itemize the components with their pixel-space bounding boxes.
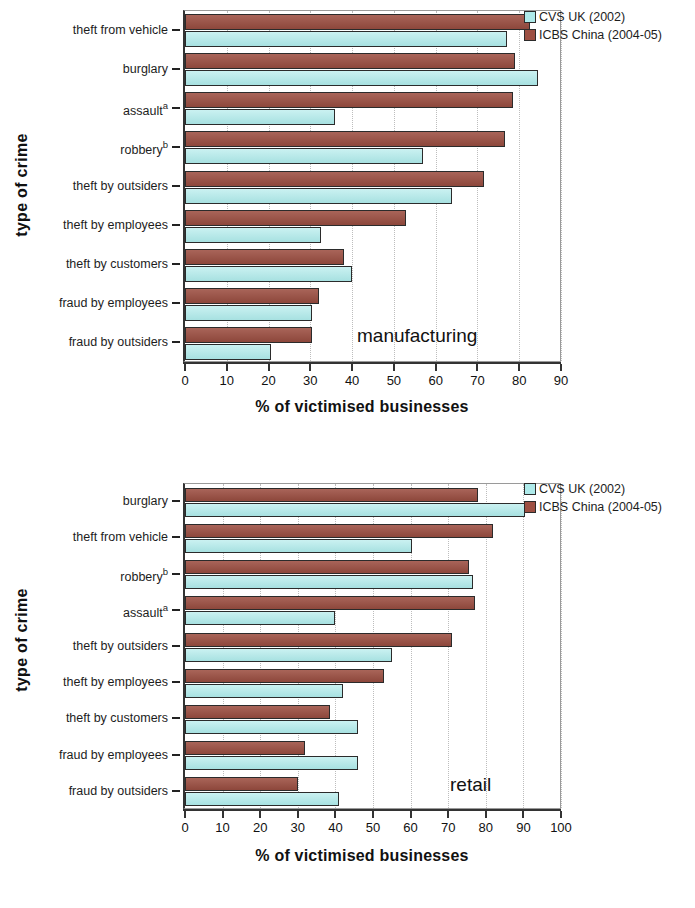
chart-manufacturing: type of crime theft from vehicleburglary… [0, 0, 695, 455]
bar-cvs-uk [185, 109, 335, 125]
bar-cvs-uk [185, 188, 452, 204]
x-axis-tick-label: 20 [252, 373, 286, 388]
x-axis-tick-label: 80 [502, 373, 536, 388]
bar-cvs-uk [185, 648, 392, 662]
chart-retail: type of crime burglarytheft from vehicle… [0, 455, 695, 908]
legend-swatch-icbs [524, 501, 536, 513]
x-axis-tick [309, 364, 311, 371]
x-axis-tick [485, 811, 487, 818]
category-label: fraud by outsiders [69, 336, 168, 349]
legend-label: CVS UK (2002) [539, 482, 625, 496]
bar-cvs-uk [185, 575, 473, 589]
bar-icbs-china [185, 633, 452, 647]
legend-label: ICBS China (2004-05) [539, 500, 662, 514]
x-axis-tick [259, 811, 261, 818]
x-axis-tick [226, 364, 228, 371]
bar-cvs-uk [185, 266, 352, 282]
category-labels-retail: burglarytheft from vehiclerobberybassaul… [0, 455, 180, 820]
x-axis-tick [476, 364, 478, 371]
x-axis-tick-label: 0 [168, 373, 202, 388]
y-axis-tick [172, 302, 180, 304]
category-label: burglary [123, 63, 168, 76]
x-axis-tick [184, 811, 186, 818]
category-label: theft by outsiders [73, 640, 168, 653]
bar-cvs-uk [185, 756, 358, 770]
category-label: burglary [123, 495, 168, 508]
x-axis-tick-label: 30 [281, 820, 315, 835]
y-axis-tick [172, 500, 180, 502]
panel-note-retail: retail [450, 774, 491, 796]
bar-cvs-uk [185, 792, 339, 806]
legend-label: ICBS China (2004-05) [539, 28, 662, 42]
x-axis-tick [334, 811, 336, 818]
x-axis-tick-label: 50 [377, 373, 411, 388]
legend-item: CVS UK (2002) [524, 8, 662, 25]
bar-icbs-china [185, 524, 493, 538]
x-axis-tick-label: 0 [168, 820, 202, 835]
y-axis-tick [172, 717, 180, 719]
y-axis-tick [172, 263, 180, 265]
y-axis-tick [172, 146, 180, 148]
x-axis-tick-label: 100 [544, 820, 578, 835]
category-label-superscript: a [163, 602, 168, 613]
bar-icbs-china [185, 777, 298, 791]
x-axis-tick [435, 364, 437, 371]
category-label-superscript: b [163, 139, 168, 150]
y-axis-tick [172, 185, 180, 187]
legend-item: ICBS China (2004-05) [524, 26, 662, 43]
y-axis-tick [172, 224, 180, 226]
legend-swatch-cvs [524, 11, 536, 23]
x-axis-line [183, 362, 561, 364]
bar-icbs-china [185, 596, 475, 610]
category-label: robberyb [120, 568, 168, 584]
plot-area-retail [183, 483, 561, 809]
x-axis-tick [184, 364, 186, 371]
y-axis-tick [172, 107, 180, 109]
x-axis-tick [268, 364, 270, 371]
legend-item: ICBS China (2004-05) [524, 498, 662, 515]
bar-cvs-uk [185, 720, 358, 734]
x-axis-tick-label: 10 [210, 373, 244, 388]
x-axis-tick-label: 10 [206, 820, 240, 835]
bar-icbs-china [185, 53, 515, 69]
bar-cvs-uk [185, 539, 412, 553]
y-axis-tick [172, 645, 180, 647]
bar-cvs-uk [185, 503, 525, 517]
category-label: theft from vehicle [73, 24, 168, 37]
gridline [561, 11, 563, 361]
bar-icbs-china [185, 14, 530, 30]
bar-icbs-china [185, 705, 330, 719]
x-axis-tick [372, 811, 374, 818]
y-axis-tick [172, 29, 180, 31]
bar-cvs-uk [185, 31, 507, 47]
x-axis-tick [560, 811, 562, 818]
bar-icbs-china [185, 327, 312, 343]
bar-icbs-china [185, 249, 344, 265]
x-axis-tick-label: 90 [506, 820, 540, 835]
y-axis-tick [172, 68, 180, 70]
x-axis-tick-label: 40 [318, 820, 352, 835]
x-axis-tick-label: 20 [243, 820, 277, 835]
plot-area-manufacturing [183, 10, 561, 362]
x-axis-tick [351, 364, 353, 371]
legend-retail: CVS UK (2002)ICBS China (2004-05) [524, 480, 662, 516]
category-label: theft by employees [63, 676, 168, 689]
x-axis-tick-label: 40 [335, 373, 369, 388]
legend-item: CVS UK (2002) [524, 480, 662, 497]
x-axis-tick-label: 50 [356, 820, 390, 835]
x-axis-tick-label: 70 [431, 820, 465, 835]
category-label: fraud by employees [59, 297, 168, 310]
x-axis-tick-label: 70 [460, 373, 494, 388]
category-label: fraud by outsiders [69, 785, 168, 798]
category-label: assaulta [123, 604, 168, 620]
category-label-superscript: b [163, 566, 168, 577]
y-axis-tick [172, 754, 180, 756]
bar-icbs-china [185, 92, 513, 108]
bar-icbs-china [185, 488, 478, 502]
x-axis-tick [222, 811, 224, 818]
category-label: robberyb [120, 141, 168, 157]
x-axis-tick [518, 364, 520, 371]
bar-cvs-uk [185, 611, 335, 625]
panel-note-manufacturing: manufacturing [357, 325, 477, 347]
gridline [561, 484, 563, 808]
